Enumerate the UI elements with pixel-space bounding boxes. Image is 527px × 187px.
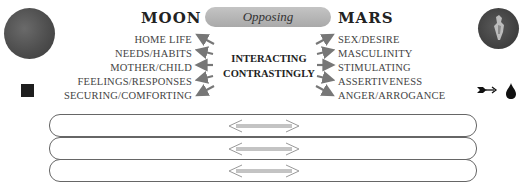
arrow-left-icon [201, 86, 214, 93]
double-arrow-icon [228, 119, 300, 133]
fan-arrows [0, 0, 527, 110]
interaction-band [49, 159, 477, 182]
double-arrow-icon [228, 164, 300, 178]
arrow-right-icon [317, 76, 329, 79]
interaction-band [49, 137, 477, 160]
arrow-left-icon [201, 51, 213, 54]
arrow-right-icon [316, 37, 329, 44]
arrow-right-icon [316, 86, 329, 93]
arrow-right-icon [317, 51, 329, 54]
interaction-band [49, 114, 477, 137]
double-arrow-icon [228, 142, 300, 156]
arrow-left-icon [201, 37, 214, 44]
arrow-left-icon [201, 76, 213, 79]
